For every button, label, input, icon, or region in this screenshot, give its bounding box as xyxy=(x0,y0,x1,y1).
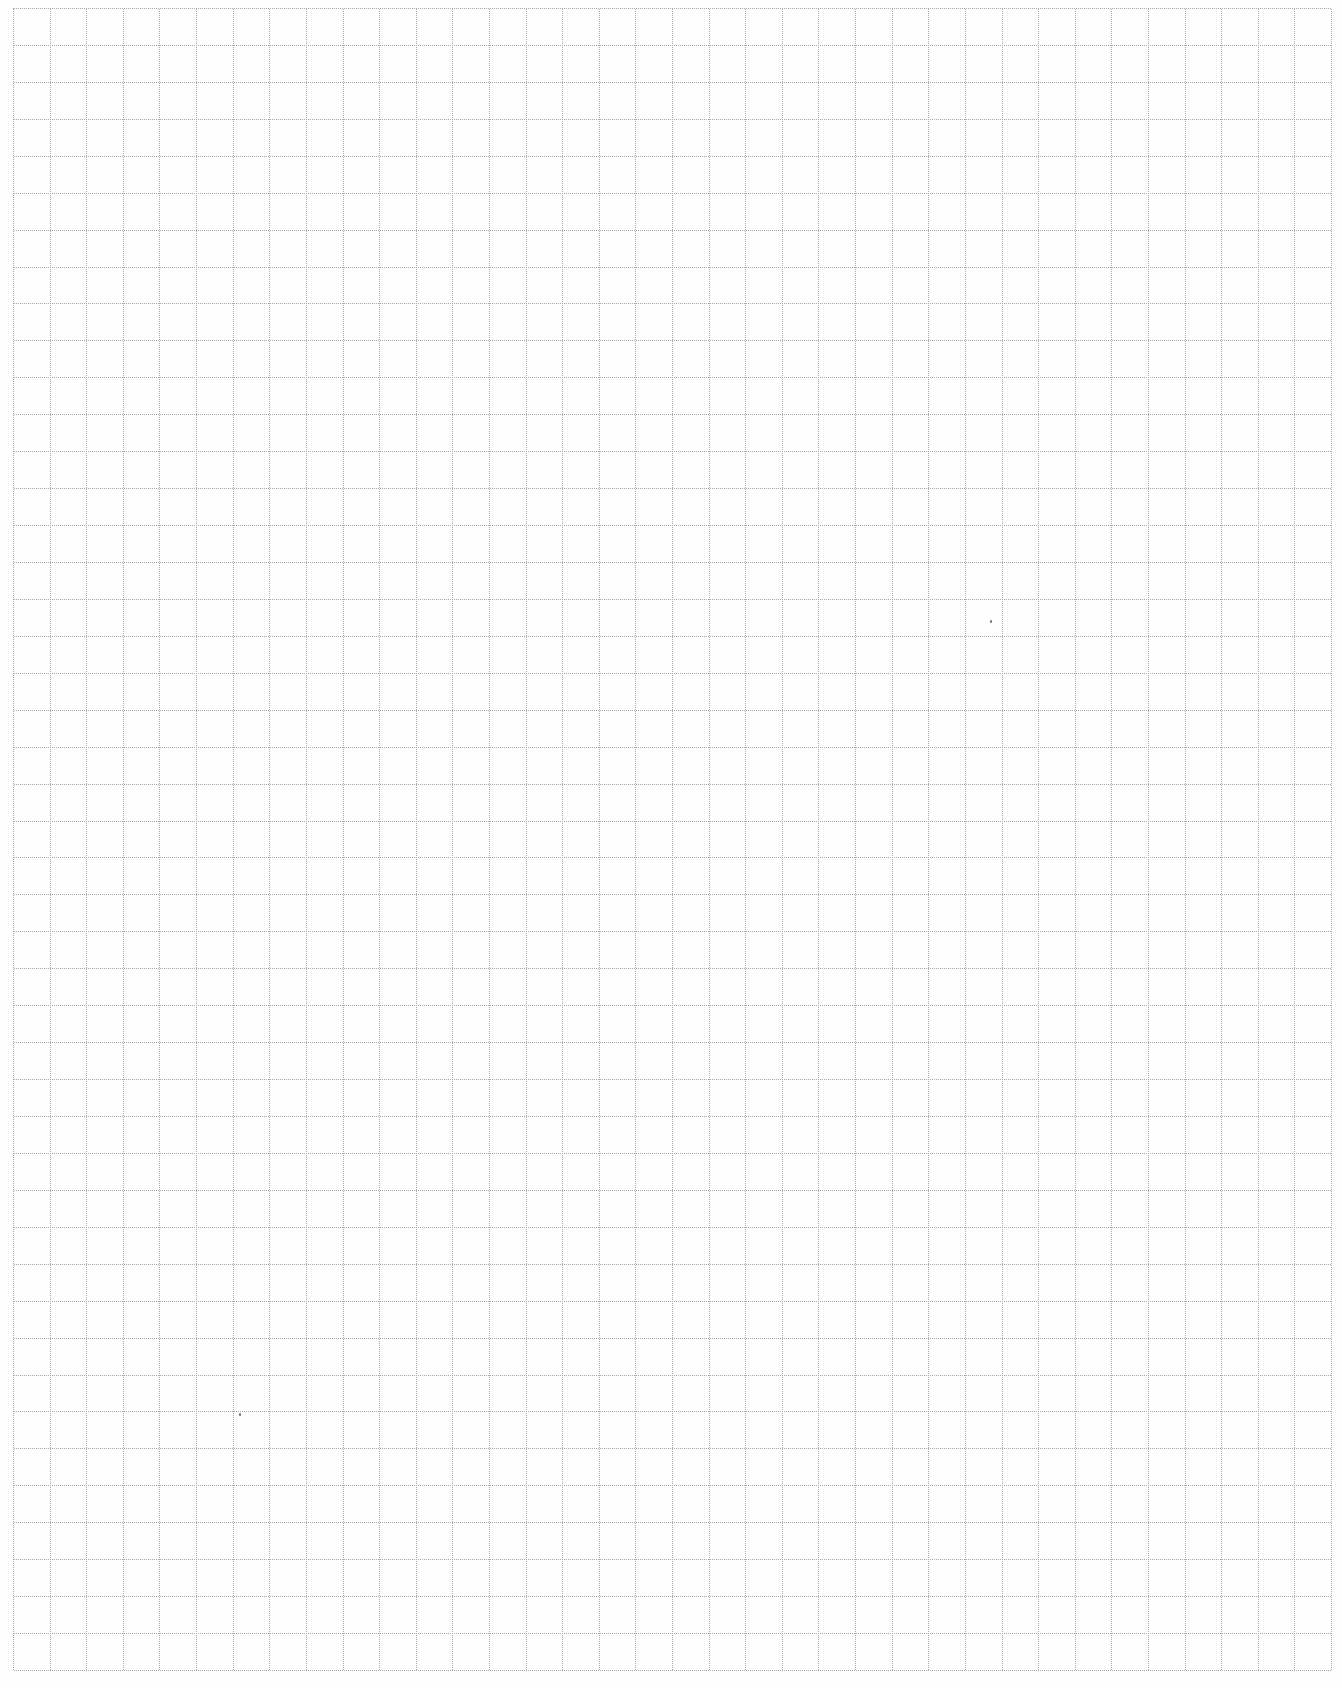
grid-horizontal-line xyxy=(14,230,1331,231)
grid-horizontal-line xyxy=(14,1596,1331,1597)
grid-horizontal-line xyxy=(14,1375,1331,1376)
grid-vertical-line xyxy=(672,9,673,1670)
grid-horizontal-line xyxy=(14,119,1331,120)
grid-vertical-line xyxy=(1038,9,1039,1670)
grid-horizontal-line xyxy=(14,377,1331,378)
graph-paper-sheet xyxy=(0,0,1342,1688)
grid-vertical-line xyxy=(1111,9,1112,1670)
grid-vertical-line xyxy=(452,9,453,1670)
grid-horizontal-line xyxy=(14,562,1331,563)
grid-vertical-line xyxy=(709,9,710,1670)
grid-vertical-line xyxy=(782,9,783,1670)
grid-vertical-line xyxy=(928,9,929,1670)
grid-horizontal-line xyxy=(14,193,1331,194)
grid-horizontal-line xyxy=(14,673,1331,674)
grid-horizontal-line xyxy=(14,968,1331,969)
grid-horizontal-line xyxy=(14,1227,1331,1228)
grid-horizontal-line xyxy=(14,1633,1331,1634)
grid-vertical-line xyxy=(123,9,124,1670)
grid-horizontal-line xyxy=(14,857,1331,858)
grid-horizontal-line xyxy=(14,784,1331,785)
grid-horizontal-line xyxy=(14,1670,1331,1671)
scan-speck xyxy=(990,620,992,623)
grid-horizontal-line xyxy=(14,821,1331,822)
grid-vertical-line xyxy=(635,9,636,1670)
grid-vertical-line xyxy=(489,9,490,1670)
grid-horizontal-line xyxy=(14,636,1331,637)
grid-horizontal-line xyxy=(14,303,1331,304)
grid-horizontal-line xyxy=(14,1079,1331,1080)
grid-horizontal-line xyxy=(14,710,1331,711)
grid-vertical-line xyxy=(416,9,417,1670)
grid-vertical-line xyxy=(965,9,966,1670)
grid-vertical-line xyxy=(599,9,600,1670)
grid-vertical-line xyxy=(159,9,160,1670)
grid-horizontal-line xyxy=(14,1042,1331,1043)
grid-horizontal-line xyxy=(14,1559,1331,1560)
grid-vertical-line xyxy=(1148,9,1149,1670)
grid-vertical-line xyxy=(892,9,893,1670)
grid-vertical-line xyxy=(306,9,307,1670)
grid-vertical-line xyxy=(745,9,746,1670)
grid-horizontal-line xyxy=(14,414,1331,415)
grid-vertical-line xyxy=(1075,9,1076,1670)
grid-horizontal-line xyxy=(14,1522,1331,1523)
grid-horizontal-line xyxy=(14,45,1331,46)
grid-vertical-line xyxy=(233,9,234,1670)
scan-speck xyxy=(239,1413,241,1416)
grid-horizontal-line xyxy=(14,267,1331,268)
grid-horizontal-line xyxy=(14,1301,1331,1302)
grid-horizontal-line xyxy=(14,1190,1331,1191)
grid-horizontal-line xyxy=(14,451,1331,452)
grid-horizontal-line xyxy=(14,1448,1331,1449)
grid-vertical-line xyxy=(562,9,563,1670)
grid-horizontal-line xyxy=(14,1338,1331,1339)
grid-vertical-line xyxy=(86,9,87,1670)
grid-horizontal-line xyxy=(14,931,1331,932)
grid-vertical-line xyxy=(1331,9,1332,1670)
grid-horizontal-line xyxy=(14,1264,1331,1265)
grid-horizontal-line xyxy=(14,1485,1331,1486)
grid-horizontal-line xyxy=(14,82,1331,83)
grid-vertical-line xyxy=(526,9,527,1670)
grid-horizontal-line xyxy=(14,525,1331,526)
grid-horizontal-line xyxy=(14,1005,1331,1006)
grid-horizontal-line xyxy=(14,599,1331,600)
grid-vertical-line xyxy=(50,9,51,1670)
grid-vertical-line xyxy=(1185,9,1186,1670)
grid-horizontal-line xyxy=(14,747,1331,748)
grid xyxy=(13,8,1331,1670)
grid-vertical-line xyxy=(1221,9,1222,1670)
grid-horizontal-line xyxy=(14,1411,1331,1412)
grid-vertical-line xyxy=(1258,9,1259,1670)
grid-horizontal-line xyxy=(14,488,1331,489)
grid-horizontal-line xyxy=(14,340,1331,341)
grid-vertical-line xyxy=(1294,9,1295,1670)
grid-vertical-line xyxy=(196,9,197,1670)
grid-vertical-line xyxy=(818,9,819,1670)
grid-vertical-line xyxy=(343,9,344,1670)
grid-vertical-line xyxy=(269,9,270,1670)
grid-vertical-line xyxy=(855,9,856,1670)
grid-horizontal-line xyxy=(14,1153,1331,1154)
grid-horizontal-line xyxy=(14,156,1331,157)
grid-vertical-line xyxy=(1002,9,1003,1670)
grid-vertical-line xyxy=(379,9,380,1670)
grid-horizontal-line xyxy=(14,894,1331,895)
grid-horizontal-line xyxy=(14,1116,1331,1117)
